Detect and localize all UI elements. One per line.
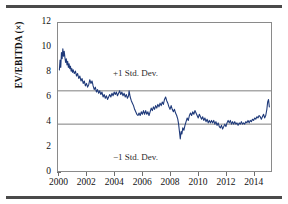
x-tick-mark [86,172,87,176]
x-tick-mark [114,172,115,176]
x-tick-mark [170,172,171,176]
y-tick-label: 6 [29,92,51,102]
reference-lines [58,91,271,124]
plot-frame [57,22,272,172]
x-tick-mark [254,172,255,176]
x-tick-mark [198,172,199,176]
x-tick-mark [58,172,59,176]
y-tick-label: 2 [29,142,51,152]
figure: EV/EBITDA (×) 024681012 2000200220042006… [0,0,288,204]
plot-svg [58,23,271,171]
x-tick-label: 2014 [237,178,271,188]
bottom-divider-rule [6,196,282,199]
annotation-plus-one-std-dev: +1 Std. Dev. [113,69,158,78]
y-tick-label: 10 [29,42,51,52]
y-tick-label: 12 [29,17,51,27]
y-tick-label: 0 [29,167,51,177]
series-line [59,49,269,139]
chart-area: EV/EBITDA (×) 024681012 2000200220042006… [0,12,288,194]
x-tick-mark [142,172,143,176]
annotation-minus-one-std-dev: −1 Std. Dev. [113,153,158,162]
x-tick-mark [226,172,227,176]
data-series-group [59,49,269,139]
y-tick-label: 4 [29,117,51,127]
y-tick-label: 8 [29,67,51,77]
y-axis-title: EV/EBITDA (×) [14,0,24,110]
top-divider-rule [6,5,282,8]
